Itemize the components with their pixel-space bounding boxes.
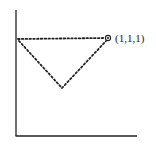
point-label: (1,1,1) — [115, 32, 145, 45]
point-marker-icon — [105, 35, 110, 40]
triangle-diagram: (1,1,1) — [0, 0, 156, 149]
dotted-top-edge — [18, 38, 105, 39]
dotted-left-edge — [19, 41, 62, 88]
dotted-right-edge — [62, 41, 106, 88]
